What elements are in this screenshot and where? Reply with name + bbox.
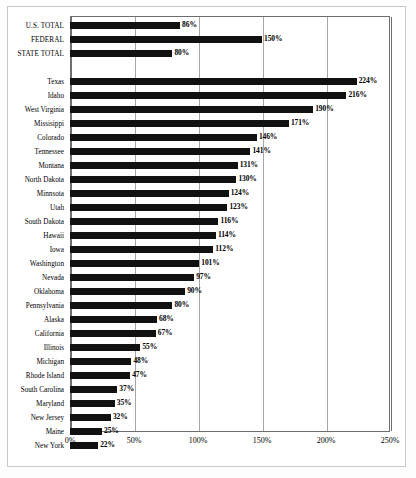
bar xyxy=(70,344,140,351)
bar-value-label: 124% xyxy=(231,186,249,199)
category-label: Maryland xyxy=(36,397,64,411)
category-label: Michigan xyxy=(36,355,64,369)
bar-value-label: 32% xyxy=(113,410,128,423)
value-axis-labels: 0%50%100%150%200%250% xyxy=(70,436,390,452)
bar xyxy=(70,260,199,267)
bar xyxy=(70,36,262,43)
bar-row: 123% xyxy=(70,201,390,215)
bar-row: 48% xyxy=(70,355,390,369)
bar xyxy=(70,428,102,435)
category-label: Idaho xyxy=(48,89,64,103)
bar-value-label: 67% xyxy=(158,326,173,339)
x-tick-label: 50% xyxy=(127,436,142,445)
bars-group: 86%150%80%224%216%190%171%146%141%131%13… xyxy=(70,16,390,432)
category-label: FEDERAL xyxy=(31,33,64,47)
bar xyxy=(70,176,236,183)
category-label: Pennsylvania xyxy=(26,299,64,313)
chart-page: U.S. TOTALFEDERALSTATE TOTALTexasIdahoWe… xyxy=(0,0,416,478)
category-label: Iowa xyxy=(50,243,64,257)
bar-row: 112% xyxy=(70,243,390,257)
bar-value-label: 141% xyxy=(252,144,270,157)
category-label: West Virginia xyxy=(25,103,64,117)
bar xyxy=(70,414,111,421)
bar-value-label: 47% xyxy=(132,368,147,381)
x-tick-label: 150% xyxy=(253,436,272,445)
bar-row: 216% xyxy=(70,89,390,103)
bar-row: 97% xyxy=(70,271,390,285)
bar-row: 47% xyxy=(70,369,390,383)
x-tick-label: 100% xyxy=(189,436,208,445)
bar xyxy=(70,204,227,211)
x-tick-label: 0% xyxy=(65,436,76,445)
bar-row: 80% xyxy=(70,299,390,313)
bar-value-label: 90% xyxy=(187,284,202,297)
category-label: Nevada xyxy=(42,271,64,285)
bar-value-label: 131% xyxy=(240,158,258,171)
bar xyxy=(70,246,213,253)
category-label: Minnsota xyxy=(37,187,64,201)
bar xyxy=(70,302,172,309)
bar xyxy=(70,316,157,323)
category-label: Colorado xyxy=(37,131,64,145)
category-axis-labels: U.S. TOTALFEDERALSTATE TOTALTexasIdahoWe… xyxy=(0,16,67,432)
bar-row: 86% xyxy=(70,19,390,33)
bar-row: 116% xyxy=(70,215,390,229)
x-tick-label: 250% xyxy=(381,436,400,445)
bar-row: 80% xyxy=(70,47,390,61)
bar xyxy=(70,232,216,239)
category-label: Tennessee xyxy=(35,145,64,159)
bar-value-label: 80% xyxy=(174,46,189,59)
bar xyxy=(70,190,229,197)
bar xyxy=(70,22,180,29)
bar-value-label: 224% xyxy=(359,74,377,87)
bar xyxy=(70,92,346,99)
bar xyxy=(70,274,194,281)
bar xyxy=(70,372,130,379)
bar-row: 90% xyxy=(70,285,390,299)
bar-row: 37% xyxy=(70,383,390,397)
bar-row: 150% xyxy=(70,33,390,47)
bar xyxy=(70,50,172,57)
bar-row: 35% xyxy=(70,397,390,411)
category-label: U.S. TOTAL xyxy=(26,19,64,33)
bar xyxy=(70,358,131,365)
bar xyxy=(70,78,357,85)
bar-row: 32% xyxy=(70,411,390,425)
bar-value-label: 216% xyxy=(348,88,366,101)
bar-row: 68% xyxy=(70,313,390,327)
category-label: California xyxy=(35,327,64,341)
category-label: South Dakota xyxy=(25,215,64,229)
bar-value-label: 112% xyxy=(215,242,233,255)
bar-row: 146% xyxy=(70,131,390,145)
bar-value-label: 190% xyxy=(315,102,333,115)
bar xyxy=(70,148,250,155)
bar-row: 171% xyxy=(70,117,390,131)
bar-row: 67% xyxy=(70,327,390,341)
category-label: Oklahoma xyxy=(34,285,64,299)
bar-value-label: 37% xyxy=(119,382,134,395)
category-label: North Dakota xyxy=(25,173,64,187)
category-label: Illinois xyxy=(44,341,64,355)
x-tick-label: 200% xyxy=(317,436,336,445)
bar-value-label: 80% xyxy=(174,298,189,311)
bar-value-label: 55% xyxy=(142,340,157,353)
bar xyxy=(70,120,289,127)
category-label: Washington xyxy=(30,257,64,271)
bar-value-label: 97% xyxy=(196,270,211,283)
category-label: Missisippi xyxy=(34,117,64,131)
bar-value-label: 101% xyxy=(201,256,219,269)
bar-value-label: 35% xyxy=(117,396,132,409)
category-label: Utah xyxy=(50,201,64,215)
bar-value-label: 171% xyxy=(291,116,309,129)
category-label: South Carolina xyxy=(21,383,64,397)
bar-value-label: 123% xyxy=(229,200,247,213)
bar-row: 141% xyxy=(70,145,390,159)
bar xyxy=(70,106,313,113)
bar-row: 131% xyxy=(70,159,390,173)
category-label: STATE TOTAL xyxy=(17,47,64,61)
category-label: Maine xyxy=(46,425,64,439)
bar-row: 130% xyxy=(70,173,390,187)
bar-row: 114% xyxy=(70,229,390,243)
bar xyxy=(70,134,257,141)
bar-value-label: 146% xyxy=(259,130,277,143)
